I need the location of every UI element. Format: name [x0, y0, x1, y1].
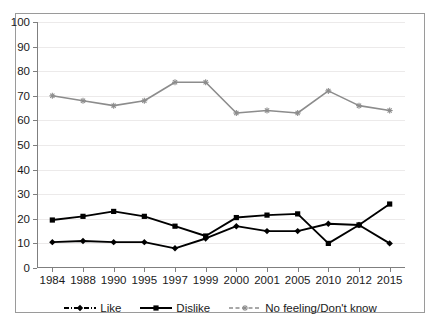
x-tick-mark	[298, 268, 299, 272]
legend-item-1[interactable]: Like	[63, 302, 121, 314]
y-tick-label: 50	[17, 139, 30, 151]
y-tick-label: 100	[11, 16, 30, 28]
chart-frame: 0102030405060708090100 19841988199019951…	[15, 13, 425, 313]
legend-item-2[interactable]: Dislike	[139, 302, 210, 314]
x-tick-mark	[236, 268, 237, 272]
data-point	[111, 103, 117, 109]
data-point	[80, 238, 86, 244]
data-point	[142, 214, 147, 219]
y-tick-mark	[33, 268, 37, 269]
x-tick-label: 2000	[224, 274, 250, 286]
x-tick-label: 2001	[254, 274, 280, 286]
x-tick-label: 2015	[377, 274, 403, 286]
data-point	[326, 241, 331, 246]
x-tick-label: 1990	[101, 274, 127, 286]
data-point	[233, 223, 239, 229]
legend-marker-icon	[228, 302, 262, 314]
data-point	[295, 211, 300, 216]
legend-label: Like	[100, 302, 121, 314]
x-tick-label: 2005	[285, 274, 311, 286]
data-point	[49, 239, 55, 245]
data-point	[110, 239, 116, 245]
x-tick-mark	[206, 268, 207, 272]
data-point	[325, 88, 331, 94]
x-tick-mark	[175, 268, 176, 272]
y-tick-label: 20	[17, 213, 30, 225]
data-point	[80, 214, 85, 219]
series-3	[49, 79, 392, 116]
x-tick-mark	[144, 268, 145, 272]
x-tick-mark	[328, 268, 329, 272]
data-point	[387, 201, 392, 206]
x-tick-mark	[390, 268, 391, 272]
data-point	[49, 93, 55, 99]
data-point	[294, 228, 300, 234]
x-tick-mark	[83, 268, 84, 272]
data-point	[356, 222, 361, 227]
data-point	[264, 228, 270, 234]
data-point	[264, 213, 269, 218]
y-tick-label: 0	[24, 262, 30, 274]
x-tick-label: 1988	[70, 274, 96, 286]
y-tick-label: 40	[17, 164, 30, 176]
chart-legend: LikeDislikeNo feeling/Don't know	[16, 302, 424, 314]
legend-marker-icon	[63, 302, 97, 314]
x-tick-label: 2010	[316, 274, 342, 286]
x-tick-label: 1995	[132, 274, 158, 286]
y-tick-label: 70	[17, 90, 30, 102]
y-tick-label: 10	[17, 237, 30, 249]
x-tick-label: 1984	[40, 274, 66, 286]
data-point	[172, 245, 178, 251]
legend-label: No feeling/Don't know	[265, 302, 377, 314]
x-tick-label: 2012	[346, 274, 372, 286]
series-lines	[37, 22, 405, 268]
legend-label: Dislike	[176, 302, 210, 314]
data-point	[356, 103, 362, 109]
plot-area: 0102030405060708090100 19841988199019951…	[37, 22, 405, 268]
y-tick-label: 90	[17, 41, 30, 53]
data-point	[50, 217, 55, 222]
legend-item-3[interactable]: No feeling/Don't know	[228, 302, 377, 314]
data-point	[264, 108, 270, 114]
x-tick-mark	[359, 268, 360, 272]
data-point	[111, 209, 116, 214]
data-point	[325, 221, 331, 227]
data-point	[203, 233, 208, 238]
legend-marker-icon	[139, 302, 173, 314]
y-tick-label: 60	[17, 114, 30, 126]
x-tick-mark	[114, 268, 115, 272]
data-point	[172, 224, 177, 229]
x-tick-label: 1997	[162, 274, 188, 286]
x-tick-label: 1999	[193, 274, 219, 286]
series-line	[52, 82, 389, 113]
data-point	[234, 215, 239, 220]
x-tick-mark	[52, 268, 53, 272]
data-point	[80, 98, 86, 104]
x-tick-mark	[267, 268, 268, 272]
y-tick-label: 30	[17, 188, 30, 200]
data-point	[387, 108, 393, 114]
data-point	[295, 110, 301, 116]
y-tick-label: 80	[17, 65, 30, 77]
data-point	[141, 239, 147, 245]
